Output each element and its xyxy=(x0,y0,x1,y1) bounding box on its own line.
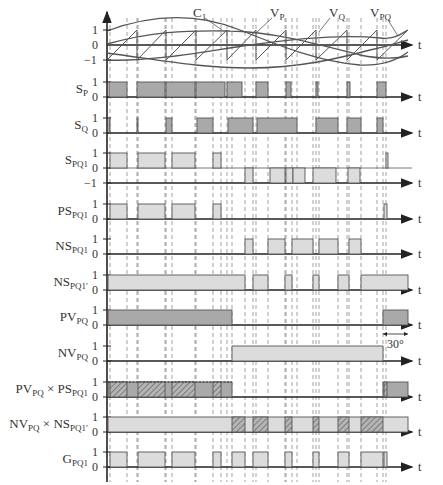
time-label: t xyxy=(418,283,422,297)
pulse xyxy=(361,275,408,290)
time-label: t xyxy=(418,176,422,190)
pulse xyxy=(138,153,165,168)
tick-1: 1 xyxy=(92,445,98,459)
row-nspq1p: t10NSPQ1′ xyxy=(53,268,422,297)
pulse xyxy=(313,275,319,290)
tick-0: 0 xyxy=(92,38,98,52)
tick-0: 0 xyxy=(92,126,98,140)
pulse xyxy=(172,382,195,397)
row-spq1: t10−1SPQ1 xyxy=(65,146,422,190)
row-label-spq1: SPQ1 xyxy=(65,152,88,169)
pulse xyxy=(384,204,387,219)
time-label: t xyxy=(418,460,422,474)
pulse xyxy=(138,204,165,219)
row-label-pspq1: PSPQ1 xyxy=(58,203,88,220)
pulse xyxy=(137,82,165,97)
pulse xyxy=(172,452,195,467)
tick-0: 0 xyxy=(92,390,98,404)
pulse xyxy=(253,452,268,467)
pulse xyxy=(384,452,387,467)
tick-neg1: −1 xyxy=(84,53,97,67)
pulse xyxy=(285,452,292,467)
row-label-nspq1p: NSPQ1′ xyxy=(53,274,88,291)
row-nvxns: t10NVPQ × NSPQ1′ xyxy=(9,410,422,439)
pulse xyxy=(349,239,361,254)
row-label-pvxps: PVPQ × PSPQ1 xyxy=(16,381,88,398)
pulse xyxy=(245,168,253,183)
pulse xyxy=(256,82,268,97)
row-label-sq: SQ xyxy=(74,117,88,134)
pulse xyxy=(138,452,165,467)
pulse xyxy=(377,82,386,97)
tick-0: 0 xyxy=(92,354,98,368)
pulse xyxy=(172,153,195,168)
tick-1: 1 xyxy=(92,23,98,37)
tick-0: 0 xyxy=(92,161,98,175)
row-label-nvxns: NVPQ × NSPQ1′ xyxy=(9,416,88,433)
tick-1: 1 xyxy=(92,268,98,282)
pulse xyxy=(138,382,165,397)
pulse xyxy=(108,310,232,325)
pulse xyxy=(386,153,388,168)
pulse xyxy=(286,168,293,183)
pulse xyxy=(109,118,110,133)
signal-rows: t10SPt10SQt10−1SPQ1t10PSPQ1t10NSPQ1t10NS… xyxy=(9,75,422,474)
pulse xyxy=(348,168,360,183)
row-pspq1: t10PSPQ1 xyxy=(58,197,422,226)
row-pvpq: t10PVPQ xyxy=(60,303,422,332)
tick-0: 0 xyxy=(92,283,98,297)
pulse xyxy=(228,118,253,133)
tick-1: 1 xyxy=(92,197,98,211)
pulse xyxy=(213,452,221,467)
pulse xyxy=(213,204,221,219)
pulse xyxy=(361,452,383,467)
pulse xyxy=(347,118,361,133)
pulse xyxy=(137,118,138,133)
pulse xyxy=(232,346,383,361)
pulse xyxy=(270,168,285,183)
tick-0: 0 xyxy=(92,425,98,439)
pulse xyxy=(232,417,245,432)
row-nvpq: t10NVPQ xyxy=(58,339,422,368)
pulse xyxy=(257,118,297,133)
time-label: t xyxy=(418,212,422,226)
pulse xyxy=(285,275,292,290)
tick-neg1: −1 xyxy=(84,176,97,190)
pulse xyxy=(197,118,213,133)
pulse xyxy=(166,82,195,97)
pulse xyxy=(253,275,268,290)
pulse xyxy=(110,452,127,467)
row-nspq1: t10NSPQ1 xyxy=(55,232,422,261)
pulse xyxy=(286,82,291,97)
tick-0: 0 xyxy=(92,90,98,104)
pulse xyxy=(268,239,285,254)
pulse xyxy=(319,239,338,254)
time-label: t xyxy=(418,247,422,261)
pulse xyxy=(232,452,245,467)
pulse xyxy=(313,168,336,183)
pulse xyxy=(253,417,268,432)
pulse xyxy=(347,82,350,97)
pulse xyxy=(110,153,127,168)
pulse xyxy=(338,417,349,432)
row-label-sp: SP xyxy=(76,81,88,98)
row-label-nspq1: NSPQ1 xyxy=(55,238,88,255)
tick-0: 0 xyxy=(92,247,98,261)
tick-1: 1 xyxy=(92,339,98,353)
pulse xyxy=(293,168,305,183)
c1-label: C1 xyxy=(193,5,206,22)
pulse xyxy=(108,275,245,290)
time-label: t xyxy=(418,354,422,368)
pulse xyxy=(313,452,319,467)
pulse xyxy=(338,275,349,290)
time-label: t xyxy=(418,318,422,332)
row-sp: t10SP xyxy=(76,75,422,104)
pulse xyxy=(384,382,387,397)
tick-0: 0 xyxy=(92,460,98,474)
tick-0: 0 xyxy=(92,318,98,332)
pulse xyxy=(245,239,253,254)
tick-1: 1 xyxy=(92,303,98,317)
pulse xyxy=(213,153,221,168)
pulse xyxy=(166,118,172,133)
time-label: t xyxy=(418,38,422,52)
